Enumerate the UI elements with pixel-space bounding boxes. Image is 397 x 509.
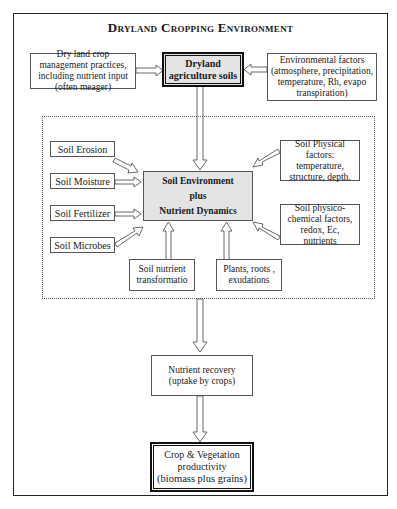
soil-environment-box: Soil Environment plus Nutrient Dynamics xyxy=(143,171,253,221)
nutrient-recovery-box: Nutrient recovery (uptake by crops) xyxy=(151,355,253,396)
nutrient-transformation-text: Soil nutrient transformatio xyxy=(132,264,192,286)
nutrient-recovery-text: Nutrient recovery (uptake by crops) xyxy=(154,365,250,387)
soil-environment-line2: plus xyxy=(159,191,236,202)
arrow-right-icon xyxy=(136,65,163,76)
arrow-down-icon xyxy=(193,299,207,352)
arrow-down-icon xyxy=(193,396,207,442)
crop-productivity-line3: (biomass plus grains) xyxy=(157,473,247,485)
soil-physical-factors-box: Soil Physical factors: temperature, stru… xyxy=(280,140,360,181)
arrow-left-icon xyxy=(244,64,267,75)
soil-physicochemical-box: Soil physico-chemical factors, redox, Ec… xyxy=(280,204,360,245)
crop-productivity-line1: Crop & Vegetation xyxy=(157,449,247,461)
management-practices-box: Dry land crop management practices, incl… xyxy=(30,53,136,89)
soil-physicochemical-text: Soil physico-chemical factors, redox, Ec… xyxy=(283,203,357,247)
environmental-factors-box: Environmental factors (atmosphere, preci… xyxy=(267,53,377,101)
soil-environment-line1: Soil Environment xyxy=(159,176,236,187)
factor-soil-fertilizer: Soil Fertilizer xyxy=(50,205,115,221)
crop-productivity-box: Crop & Vegetation productivity (biomass … xyxy=(151,443,253,491)
factor-label: Soil Fertilizer xyxy=(55,208,110,219)
plants-roots-text: Plants, roots , exudations xyxy=(219,264,279,286)
soil-physical-text: Soil Physical factors: temperature, stru… xyxy=(283,139,357,183)
factor-soil-microbes: Soil Microbes xyxy=(50,237,115,253)
crop-productivity-line2: productivity xyxy=(157,461,247,473)
soil-environment-line3: Nutrient Dynamics xyxy=(159,206,236,217)
dryland-soils-box: Dryland agriculture soils xyxy=(163,53,243,86)
factor-label: Soil Erosion xyxy=(58,144,108,155)
factor-label: Soil Microbes xyxy=(54,240,110,251)
factor-soil-moisture: Soil Moisture xyxy=(50,173,115,189)
management-practices-text: Dry land crop management practices, incl… xyxy=(33,49,133,93)
environmental-factors-text: Environmental factors (atmosphere, preci… xyxy=(270,55,374,99)
nutrient-transformation-box: Soil nutrient transformatio xyxy=(129,259,195,291)
factor-soil-erosion: Soil Erosion xyxy=(50,141,115,157)
factor-label: Soil Moisture xyxy=(55,176,110,187)
dryland-soils-line2: agriculture soils xyxy=(169,70,237,82)
plants-roots-box: Plants, roots , exudations xyxy=(216,259,282,291)
dryland-soils-line1: Dryland xyxy=(169,58,237,70)
